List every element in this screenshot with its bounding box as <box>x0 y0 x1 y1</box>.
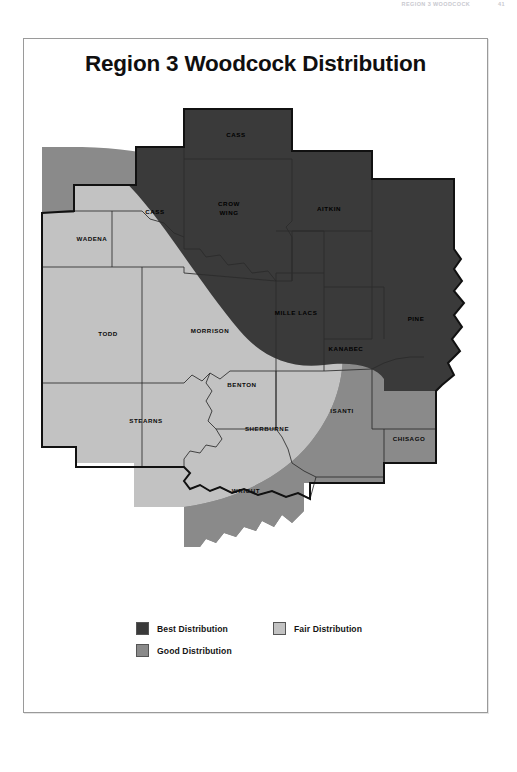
county-label-mille-lacs: MILLE LACS <box>275 309 318 316</box>
county-label-crow-wing-2: WING <box>219 209 238 216</box>
running-header: REGION 3 WOODCOCK 41 <box>0 1 517 11</box>
legend-label-good: Good Distribution <box>157 646 232 656</box>
county-label-todd: TODD <box>98 330 118 337</box>
county-label-sherburne: SHERBURNE <box>245 425 289 432</box>
figure-frame: Region 3 Woodcock Distribution <box>23 38 488 713</box>
county-label-wright: WRIGHT <box>232 487 260 494</box>
county-label-wadena: WADENA <box>77 235 108 242</box>
county-label-chisago: CHISAGO <box>393 435 426 442</box>
legend-item-good: Good Distribution <box>136 644 232 657</box>
county-label-benton: BENTON <box>227 381 256 388</box>
legend-label-fair: Fair Distribution <box>294 624 362 634</box>
county-label-cass-north: CASS <box>226 131 245 138</box>
county-label-crow-wing-1: CROW <box>218 200 240 207</box>
legend-swatch-best <box>136 622 149 635</box>
legend-swatch-good <box>136 644 149 657</box>
county-label-aitkin: AITKIN <box>317 205 341 212</box>
county-label-pine: PINE <box>408 315 425 322</box>
running-header-text: REGION 3 WOODCOCK <box>402 1 471 7</box>
woodcock-distribution-map: CASS CASS CROW WING AITKIN WADENA TODD M… <box>24 91 489 591</box>
county-label-morrison: MORRISON <box>191 327 229 334</box>
figure-title: Region 3 Woodcock Distribution <box>24 51 487 77</box>
legend-item-fair: Fair Distribution <box>273 622 362 635</box>
legend-swatch-fair <box>273 622 286 635</box>
county-label-stearns: STEARNS <box>129 417 162 424</box>
running-header-page: 41 <box>498 1 505 7</box>
county-label-isanti: ISANTI <box>330 407 354 414</box>
map-svg: CASS CASS CROW WING AITKIN WADENA TODD M… <box>24 91 489 591</box>
map-legend: Best Distribution Fair Distribution Good… <box>24 622 489 682</box>
legend-label-best: Best Distribution <box>157 624 228 634</box>
county-label-kanabec: KANABEC <box>329 345 364 352</box>
legend-item-best: Best Distribution <box>136 622 228 635</box>
county-label-cass-sw: CASS <box>145 208 164 215</box>
